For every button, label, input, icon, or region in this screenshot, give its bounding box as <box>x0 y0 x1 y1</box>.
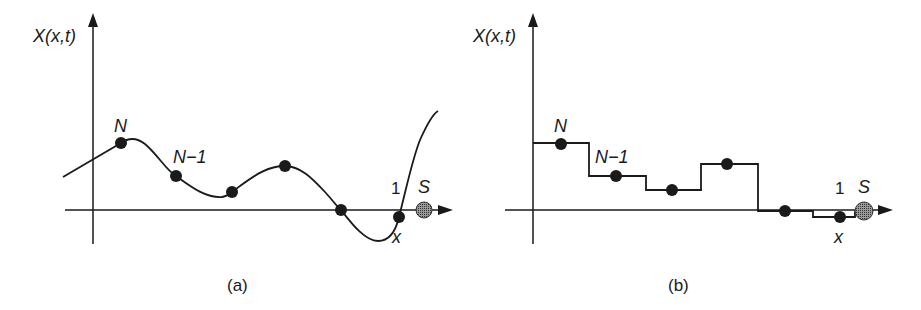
caption-b: (b) <box>668 276 689 295</box>
caption-a: (a) <box>227 276 248 295</box>
panel-a: X(x,t) N N−1 1 S x (a) <box>32 13 453 295</box>
label-S: S <box>858 177 870 197</box>
point-N <box>555 138 567 150</box>
point <box>279 160 291 172</box>
point-N-minus-1 <box>610 170 622 182</box>
label-S: S <box>418 177 430 197</box>
point-N <box>115 137 127 149</box>
label-1: 1 <box>835 179 844 198</box>
point <box>666 184 678 196</box>
label-N-minus-1: N−1 <box>173 147 207 167</box>
point <box>779 205 791 217</box>
label-x: x <box>833 227 844 247</box>
label-N: N <box>554 116 568 136</box>
step-curve <box>533 143 855 217</box>
label-N-minus-1: N−1 <box>595 147 629 167</box>
y-axis-label: X(x,t) <box>32 26 76 46</box>
sink-S <box>416 202 432 218</box>
point-N-minus-1 <box>170 170 182 182</box>
point-1 <box>834 211 846 223</box>
point <box>226 186 238 198</box>
sink-S <box>855 202 873 220</box>
figure: X(x,t) N N−1 1 S x (a) X(x,t) <box>0 0 921 310</box>
y-axis-arrow-icon <box>528 13 538 27</box>
y-axis-arrow-icon <box>88 13 98 27</box>
point <box>335 204 347 216</box>
y-axis-label: X(x,t) <box>472 26 516 46</box>
x-axis-arrow-icon <box>438 205 453 215</box>
x-axis-arrow-icon <box>878 205 893 215</box>
label-x: x <box>391 227 402 247</box>
label-N: N <box>114 116 128 136</box>
point <box>721 158 733 170</box>
label-1: 1 <box>391 179 400 198</box>
panel-b: X(x,t) N N−1 1 S x (b) <box>472 13 893 295</box>
point-1 <box>393 211 405 223</box>
